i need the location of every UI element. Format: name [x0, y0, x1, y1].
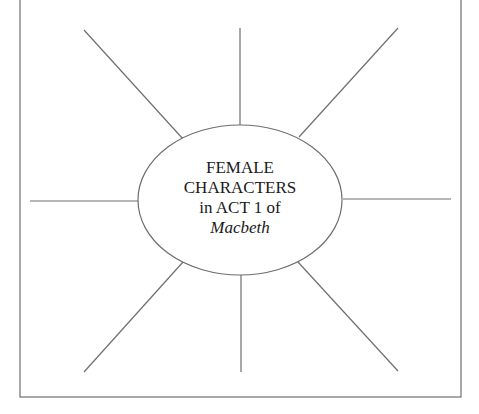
- center-label-play-title: Macbeth: [140, 218, 340, 238]
- center-label-line-2: CHARACTERS: [140, 178, 340, 198]
- center-label: FEMALE CHARACTERS in ACT 1 of Macbeth: [140, 158, 340, 238]
- center-label-line-3: in ACT 1 of: [140, 198, 340, 218]
- spoke-line-top-left: [84, 30, 183, 139]
- center-label-line-1: FEMALE: [140, 158, 340, 178]
- spoke-line-bottom-left: [84, 262, 183, 372]
- spoke-line-bottom-right: [298, 262, 398, 371]
- spoke-line-top-right: [299, 28, 398, 137]
- spider-diagram: FEMALE CHARACTERS in ACT 1 of Macbeth: [0, 0, 479, 414]
